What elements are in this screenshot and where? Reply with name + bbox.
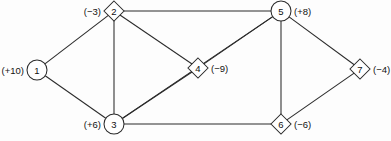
node-id-label-5: 5 [278,6,283,17]
node-supply-label-5: (+8) [294,6,311,17]
node-7[interactable]: 7(−4) [350,59,390,79]
node-id-label-4: 4 [195,63,200,74]
node-id-label-2: 2 [111,6,116,17]
edge-1-2[interactable] [45,15,108,64]
node-layer: 1(+10)2(−3)3(+6)4(−9)5(+8)6(−6)7(−4) [2,1,391,134]
edge-1-3[interactable] [45,76,106,119]
node-supply-label-1: (+10) [2,65,24,76]
edge-6-7[interactable] [287,73,354,120]
node-id-label-7: 7 [357,64,362,75]
graph-canvas: 1(+10)2(−3)3(+6)4(−9)5(+8)6(−6)7(−4) [0,0,391,141]
node-2[interactable]: 2(−3) [84,1,124,21]
edge-5-7[interactable] [289,17,354,65]
node-supply-label-7: (−4) [373,64,390,75]
node-supply-label-4: (−9) [211,63,228,74]
node-id-label-6: 6 [278,119,283,130]
node-supply-label-6: (−6) [294,119,311,130]
network-graph-figure: 1(+10)2(−3)3(+6)4(−9)5(+8)6(−6)7(−4) [0,0,391,141]
node-id-label-1: 1 [34,65,39,76]
edge-2-4[interactable] [120,15,192,64]
node-supply-label-2: (−3) [84,6,101,17]
node-id-label-3: 3 [111,119,116,130]
node-supply-label-3: (+6) [84,119,101,130]
edge-4-5[interactable] [204,17,273,64]
node-1[interactable]: 1(+10) [2,60,47,80]
